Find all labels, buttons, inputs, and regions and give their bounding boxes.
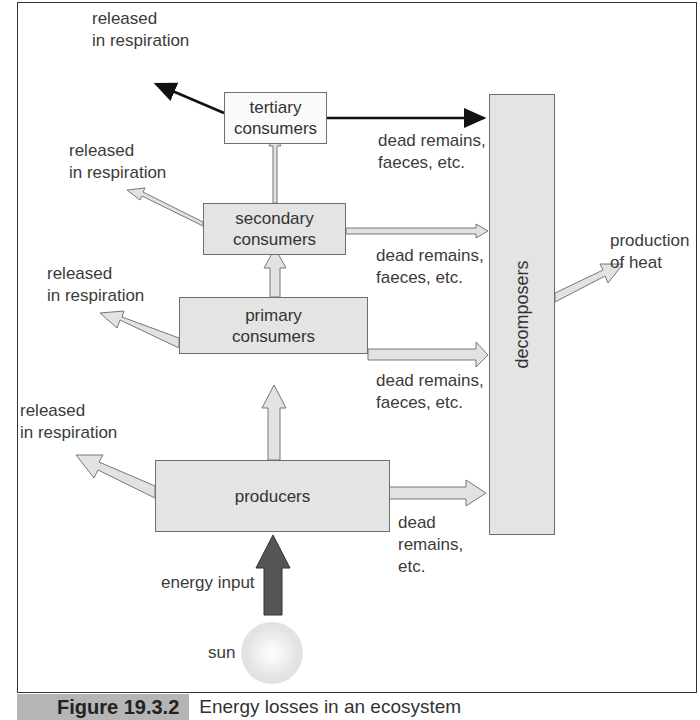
label-dead-tertiary: dead remains,faeces, etc.	[378, 130, 486, 174]
figure-caption: Figure 19.3.2 Energy losses in an ecosys…	[17, 694, 461, 716]
label-dead-secondary: dead remains,faeces, etc.	[376, 245, 484, 289]
node-label: producers	[235, 486, 311, 507]
node-label: consumers	[233, 229, 316, 250]
node-label: tertiary	[250, 97, 302, 118]
node-label: decomposers	[512, 260, 533, 368]
arrow-producers-respiration	[76, 455, 155, 498]
sun-icon	[241, 622, 303, 684]
node-tertiary-consumers: tertiary consumers	[224, 92, 327, 144]
arrow-producers-decomposers	[389, 480, 486, 506]
arrow-secondary-tertiary	[269, 136, 281, 203]
node-secondary-consumers: secondary consumers	[203, 203, 346, 255]
arrow-primary-decomposers	[368, 342, 488, 367]
label-heat: productionof heat	[610, 230, 689, 274]
node-label: secondary	[235, 208, 313, 229]
arrow-tertiary-respiration	[156, 84, 224, 113]
energy-input-arrow	[256, 535, 290, 615]
label-resp-producers: releasedin respiration	[20, 400, 117, 444]
label-sun: sun	[208, 642, 235, 664]
label-resp-secondary: releasedin respiration	[69, 140, 166, 184]
arrow-primary-respiration	[100, 311, 179, 348]
label-resp-tertiary: releasedin respiration	[92, 8, 189, 52]
arrow-producers-primary	[262, 385, 286, 460]
node-producers: producers	[155, 460, 390, 532]
figure-number: Figure 19.3.2	[17, 694, 189, 720]
label-dead-primary: dead remains,faeces, etc.	[376, 370, 484, 414]
node-label: consumers	[232, 326, 315, 347]
arrow-secondary-decomposers	[346, 224, 488, 238]
node-label: primary	[245, 305, 302, 326]
arrow-primary-secondary	[264, 248, 286, 297]
node-primary-consumers: primary consumers	[179, 297, 368, 354]
label-resp-primary: releasedin respiration	[47, 263, 144, 307]
label-energy-input: energy input	[161, 572, 255, 594]
node-label: consumers	[234, 118, 317, 139]
arrow-secondary-respiration	[127, 188, 203, 226]
label-dead-producers: deadremains,etc.	[398, 512, 463, 578]
node-decomposers: decomposers	[489, 94, 555, 535]
figure-caption-text: Energy losses in an ecosystem	[189, 694, 461, 720]
